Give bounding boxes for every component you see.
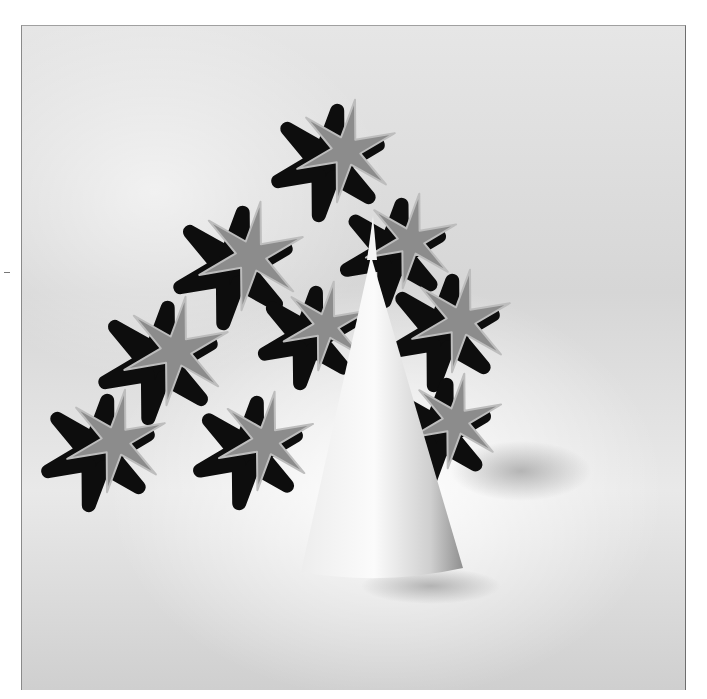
photograph-frame [21,25,686,690]
photograph-scene [22,26,686,690]
scan-mark [4,272,10,273]
